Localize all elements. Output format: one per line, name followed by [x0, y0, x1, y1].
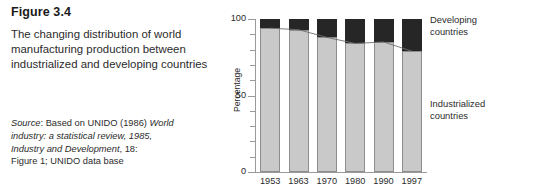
y-tick-minor [250, 111, 255, 112]
bar-segment-industrialized[interactable] [374, 42, 394, 172]
y-tick-label: 0 [222, 167, 246, 176]
figure-container: Figure 3.4 The changing distribution of … [0, 0, 534, 196]
y-tick-minor [250, 126, 255, 127]
bar-segment-developing[interactable] [317, 19, 337, 37]
source-italic-2: industry: a statistical review, 1985, [11, 131, 152, 141]
y-axis-line [255, 19, 256, 172]
bar-stack[interactable] [374, 19, 394, 172]
y-tick-major [248, 96, 255, 97]
y-tick-major [248, 19, 255, 20]
bar-segment-developing[interactable] [345, 19, 365, 43]
source-italic-3: Industry and Development [11, 144, 120, 154]
source-italic-1: World [150, 118, 174, 128]
bar-segment-industrialized[interactable] [317, 37, 337, 172]
bar-segment-developing[interactable] [402, 19, 422, 51]
bar-segment-developing[interactable] [260, 19, 280, 28]
figure-description: The changing distribution of world manuf… [11, 27, 211, 72]
legend-developing: Developing countries [430, 14, 477, 38]
legend-industrialized: Industrialized countries [430, 98, 485, 122]
x-tick-label: 1997 [395, 176, 429, 186]
figure-source: Source: Based on UNIDO (1986) World indu… [11, 117, 216, 168]
bar-segment-developing[interactable] [374, 19, 394, 42]
source-label: Source [11, 118, 40, 128]
bar-segment-industrialized[interactable] [260, 28, 280, 172]
y-tick-minor [250, 141, 255, 142]
source-text-b: , 18: [120, 144, 138, 154]
bar-segment-industrialized[interactable] [289, 30, 309, 172]
bar-stack[interactable] [345, 19, 365, 172]
bar-stack[interactable] [260, 19, 280, 172]
legend-developing-line2: countries [430, 26, 477, 38]
x-axis-line [255, 172, 427, 173]
source-text-c: Figure 1; UNIDO data base [11, 156, 124, 166]
y-tick-minor [250, 65, 255, 66]
y-tick-major [248, 172, 255, 173]
bar-segment-developing[interactable] [289, 19, 309, 30]
bar-segment-industrialized[interactable] [345, 43, 365, 172]
page-title: Figure 3.4 [11, 6, 211, 20]
bar-stack[interactable] [402, 19, 422, 172]
source-text-a: : Based on UNIDO (1986) [40, 118, 149, 128]
y-tick-minor [250, 50, 255, 51]
legend-developing-line1: Developing [430, 14, 477, 26]
y-tick-label: 50 [222, 91, 246, 100]
bar-stack[interactable] [317, 19, 337, 172]
stacked-bar-chart: Percentage 050100 1953196319701980199019… [222, 0, 534, 196]
y-tick-minor [250, 34, 255, 35]
y-tick-label: 100 [222, 14, 246, 23]
y-tick-minor [250, 157, 255, 158]
caption-block: Figure 3.4 The changing distribution of … [11, 6, 211, 72]
bar-stack[interactable] [289, 19, 309, 172]
legend-industrialized-line2: countries [430, 110, 485, 122]
bar-segment-industrialized[interactable] [402, 51, 422, 172]
legend-industrialized-line1: Industrialized [430, 98, 485, 110]
y-tick-minor [250, 80, 255, 81]
